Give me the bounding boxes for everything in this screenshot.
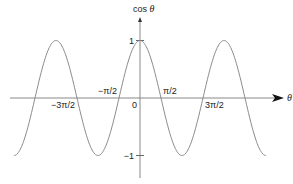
x-tick-label: −π/2 <box>98 86 117 96</box>
x-axis-label: θ <box>287 92 292 103</box>
y-axis-arrow-icon <box>138 17 142 22</box>
x-tick-label: −3π/2 <box>51 100 75 110</box>
x-tick-label: 0 <box>132 100 137 110</box>
y-axis-label: cos θ <box>133 3 155 14</box>
axes: θ cos θ <box>10 3 292 178</box>
cosine-chart: θ cos θ −3π/2−π/20π/23π/21−1 <box>0 0 293 184</box>
y-axis-label-prefix: cos <box>133 4 150 14</box>
y-tick-label: 1 <box>129 36 134 46</box>
y-axis-label-theta: θ <box>150 3 155 14</box>
x-tick-label: π/2 <box>163 86 177 96</box>
y-tick-label: −1 <box>124 151 134 161</box>
x-tick-label: 3π/2 <box>205 100 224 110</box>
